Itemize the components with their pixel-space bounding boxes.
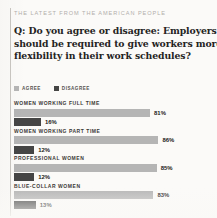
bar-row-disagree: 12% xyxy=(14,173,210,181)
bar-disagree xyxy=(14,201,36,209)
group-label: BLUE-COLLAR WOMEN xyxy=(14,183,210,190)
legend-swatch-disagree-icon xyxy=(54,86,59,91)
bar-disagree xyxy=(14,173,34,181)
bar-value-agree: 86% xyxy=(162,136,174,144)
bar-value-disagree: 12% xyxy=(38,146,50,154)
left-accent-rule xyxy=(10,8,11,216)
chart-groups: WOMEN WORKING FULL TIME81%16%WOMEN WORKI… xyxy=(14,100,210,210)
bar-row-disagree: 16% xyxy=(14,118,210,126)
legend-label-disagree: DISAGREE xyxy=(62,86,90,91)
group-label: WOMEN WORKING FULL TIME xyxy=(14,100,210,107)
bar-value-disagree: 12% xyxy=(38,173,50,181)
question-line-3: flexibility in their work schedules? xyxy=(14,50,204,63)
bar-value-disagree: 13% xyxy=(40,201,52,209)
bar-row-disagree: 12% xyxy=(14,146,210,154)
card-content: THE LATEST FROM THE AMERICAN PEOPLE Q: D… xyxy=(14,0,210,218)
question-line-1: Q: Do you agree or disagree: Employers xyxy=(14,25,204,38)
question-line-2: should be required to give workers more xyxy=(14,38,204,51)
bar-row-agree: 81% xyxy=(14,109,210,117)
kicker-eyebrow: THE LATEST FROM THE AMERICAN PEOPLE xyxy=(14,10,166,16)
chart-group: BLUE-COLLAR WOMEN83%13% xyxy=(14,183,210,211)
chart-group: PROFESSIONAL WOMEN85%12% xyxy=(14,155,210,183)
bar-agree xyxy=(14,164,157,172)
bar-value-agree: 81% xyxy=(154,109,166,117)
legend-item-agree: AGREE xyxy=(14,86,41,91)
group-label: PROFESSIONAL WOMEN xyxy=(14,155,210,162)
group-label: WOMEN WORKING PART TIME xyxy=(14,128,210,135)
bar-value-agree: 85% xyxy=(161,164,173,172)
legend-swatch-agree-icon xyxy=(14,86,19,91)
bar-value-disagree: 16% xyxy=(45,118,57,126)
chart-group: WOMEN WORKING PART TIME86%12% xyxy=(14,128,210,156)
bar-agree xyxy=(14,109,150,117)
legend-item-disagree: DISAGREE xyxy=(54,86,90,91)
infographic-card: THE LATEST FROM THE AMERICAN PEOPLE Q: D… xyxy=(0,0,217,218)
chart-group: WOMEN WORKING FULL TIME81%16% xyxy=(14,100,210,128)
bar-value-agree: 83% xyxy=(157,191,169,199)
bar-disagree xyxy=(14,146,34,154)
bar-row-agree: 83% xyxy=(14,191,210,199)
legend-label-agree: AGREE xyxy=(22,86,41,91)
chart-legend: AGREE DISAGREE xyxy=(14,86,90,91)
bar-row-disagree: 13% xyxy=(14,201,210,209)
bar-row-agree: 86% xyxy=(14,136,210,144)
question-heading: Q: Do you agree or disagree: Employers s… xyxy=(14,25,204,63)
bar-agree xyxy=(14,191,153,199)
bar-agree xyxy=(14,136,158,144)
bar-disagree xyxy=(14,118,41,126)
bar-row-agree: 85% xyxy=(14,164,210,172)
